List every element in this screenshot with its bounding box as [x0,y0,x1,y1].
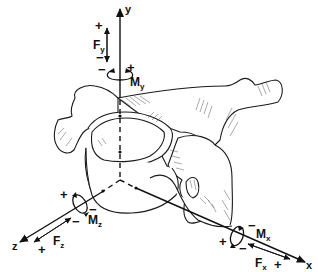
mz-plus: + [60,187,68,202]
my-plus: + [127,60,135,75]
mz-minus: − [89,202,97,217]
fz-plus: + [38,242,46,257]
mx-symbol: Mx [256,227,271,243]
my-symbol: My [130,75,145,91]
endplate-rim [92,118,165,162]
force-fx: − Fx + [239,241,290,272]
fx-minus: − [239,241,247,256]
axis-x-label: x [306,259,313,271]
fx-plus: + [274,257,282,272]
mx-plus: + [219,234,227,249]
axis-z-label: z [12,240,18,252]
my-minus: − [98,62,106,77]
fz-minus: − [72,214,80,229]
force-fy: + Fy − [93,18,107,65]
fy-plus: + [95,18,103,33]
mx-minus: − [248,218,256,233]
diagram-svg: y z x + Fy − − + My + Mz − [0,0,318,272]
vertebra-coordinate-diagram: y z x + Fy − − + My + Mz − [0,0,318,272]
force-fz: − Fz + [34,214,80,257]
axis-y-label: y [125,3,132,15]
moment-my: − + My [98,60,145,91]
fz-symbol: Fz [53,234,64,250]
fx-symbol: Fx [255,256,267,272]
